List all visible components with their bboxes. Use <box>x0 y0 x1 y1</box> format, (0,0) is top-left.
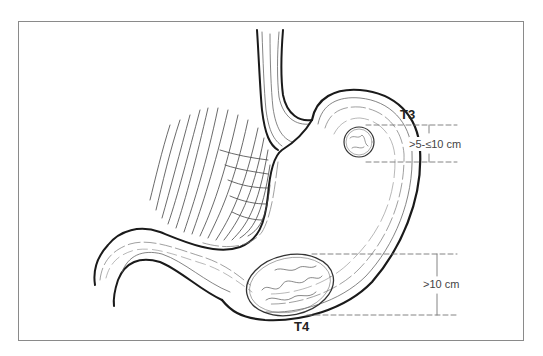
stomach-outline <box>94 90 420 320</box>
t4-size-label: >10 cm <box>423 277 459 291</box>
stomach-illustration <box>0 0 543 356</box>
t3-size-label: >5-≤10 cm <box>409 137 461 151</box>
t4-stage-label: T4 <box>294 319 309 334</box>
rugal-folds <box>150 108 270 240</box>
t3-tumor <box>344 127 374 157</box>
t3-stage-label: T3 <box>400 107 415 122</box>
